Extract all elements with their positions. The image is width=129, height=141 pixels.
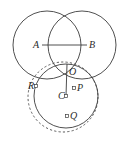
geometry-figure: A B O P Q R C [0,0,129,141]
label-C: C [58,91,65,101]
point-marker-Q [66,115,69,118]
label-B: B [89,40,95,50]
segment-OC [66,64,67,96]
label-A: A [33,40,39,50]
label-Q: Q [70,111,77,121]
label-O: O [69,67,76,77]
point-marker-P [73,87,76,90]
point-marker-R [35,85,38,88]
label-R: R [28,81,34,91]
label-P: P [77,83,83,93]
geometry-canvas [0,0,129,141]
